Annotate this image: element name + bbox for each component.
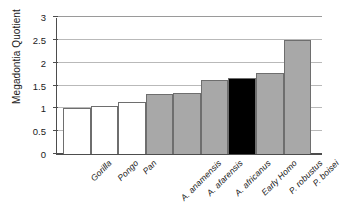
bar-slot [118, 17, 146, 154]
y-axis-tick-label: 2.5 [33, 34, 46, 45]
y-axis-tick: 3 [53, 16, 58, 17]
y-axis-tick-label: 0.5 [33, 126, 46, 137]
bar-slot [173, 17, 201, 154]
bar [63, 108, 91, 154]
y-axis-tick-label: 1.5 [33, 80, 46, 91]
x-axis-label: Pongo [116, 158, 141, 183]
bar [284, 40, 312, 154]
y-axis-tick-label: 3 [41, 12, 46, 23]
bar-slot [284, 17, 312, 154]
bar-slot [228, 17, 256, 154]
y-axis-title: Megadontia Quotient [11, 0, 22, 127]
x-axis-labels: GorillaPongoPanA. anamensisA. afarensisA… [62, 158, 310, 218]
bar-chart: Megadontia Quotient 00.511.522.53 Gorill… [0, 0, 342, 220]
y-axis-tick: 1 [53, 107, 58, 108]
bar [146, 94, 174, 154]
plot-area: 00.511.522.53 [56, 18, 322, 155]
y-axis-tick: 1.5 [53, 85, 58, 86]
y-axis-tick: 0.5 [53, 130, 58, 131]
y-axis-tick: 2 [53, 62, 58, 63]
y-axis-tick-label: 0 [41, 149, 46, 160]
y-axis-tick: 2.5 [53, 39, 58, 40]
bar [91, 106, 119, 154]
y-axis-tick: 0 [53, 153, 58, 154]
bar [201, 80, 229, 154]
bar-series [63, 17, 311, 154]
x-axis-label: Pan [140, 158, 158, 176]
bar [118, 102, 146, 154]
bar [173, 93, 201, 154]
bar [256, 73, 284, 154]
bar [228, 78, 256, 154]
y-axis-tick-label: 1 [41, 103, 46, 114]
x-axis-label: Gorilla [88, 158, 113, 183]
bar-slot [91, 17, 119, 154]
bar-slot [63, 17, 91, 154]
y-axis-tick-label: 2 [41, 57, 46, 68]
bar-slot [256, 17, 284, 154]
bar-slot [201, 17, 229, 154]
bar-slot [146, 17, 174, 154]
